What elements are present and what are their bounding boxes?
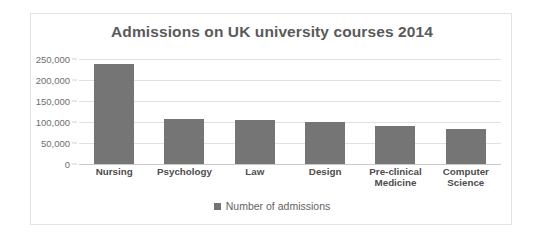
x-axis-label-nursing: Nursing	[79, 166, 149, 188]
legend-swatch-icon	[214, 203, 221, 210]
x-axis-label-law: Law	[220, 166, 290, 188]
y-tick-label: 250,000	[36, 54, 70, 65]
gridline	[79, 164, 501, 165]
x-axis-label-psychology: Psychology	[149, 166, 219, 188]
y-tick-label: 0	[65, 159, 70, 170]
bar-slot	[360, 59, 430, 164]
bar-slot	[149, 59, 219, 164]
y-tick-mark	[72, 101, 77, 102]
chart-container: Admissions on UK university courses 2014…	[30, 13, 512, 225]
x-axis-categories: NursingPsychologyLawDesignPre-clinicalMe…	[79, 166, 501, 188]
bar-slot	[290, 59, 360, 164]
x-axis-label-pre-clinical-medicine: Pre-clinicalMedicine	[360, 166, 430, 188]
chart-legend: Number of admissions	[31, 200, 513, 212]
y-tick-mark	[72, 164, 77, 165]
y-tick-label: 200,000	[36, 75, 70, 86]
chart-title: Admissions on UK university courses 2014	[31, 23, 513, 41]
bar-design[interactable]	[305, 122, 345, 164]
x-axis-label-computer-science: ComputerScience	[431, 166, 501, 188]
y-tick-mark	[72, 143, 77, 144]
bar-series	[79, 59, 501, 164]
bar-nursing[interactable]	[94, 64, 134, 164]
y-tick-mark	[72, 122, 77, 123]
bar-psychology[interactable]	[164, 119, 204, 164]
bar-pre-clinical-medicine[interactable]	[375, 126, 415, 164]
x-axis-label-design: Design	[290, 166, 360, 188]
y-tick-mark	[72, 80, 77, 81]
plot-area: 250,000200,000150,000100,00050,0000	[79, 59, 501, 164]
bar-slot	[431, 59, 501, 164]
bar-computer-science[interactable]	[446, 129, 486, 164]
bar-law[interactable]	[235, 120, 275, 164]
y-tick-label: 100,000	[36, 117, 70, 128]
bar-slot	[220, 59, 290, 164]
y-tick-mark	[72, 59, 77, 60]
legend-label: Number of admissions	[226, 200, 330, 212]
y-tick-label: 150,000	[36, 96, 70, 107]
y-tick-label: 50,000	[41, 138, 70, 149]
bar-slot	[79, 59, 149, 164]
